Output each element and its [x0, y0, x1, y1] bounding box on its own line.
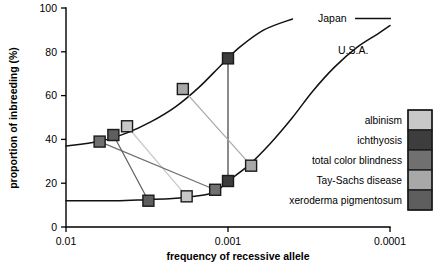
marker-1-0: [223, 53, 234, 64]
marker-4-1: [143, 195, 154, 206]
y-tick-label: 0: [51, 221, 57, 233]
y-tick-label: 100: [39, 2, 57, 14]
legend-label-1: ichthyosis: [357, 135, 402, 146]
chart-canvas: 0204060801000.010.0010.0001 JapanU.S.A. …: [0, 0, 441, 267]
legend: albinismichthyosistotal color blindnessT…: [289, 110, 432, 210]
connector-line-3: [183, 89, 251, 166]
x-tick-label: 0.0001: [374, 235, 406, 247]
curve-labels: JapanU.S.A.: [318, 12, 391, 56]
connector-line-0: [127, 126, 187, 196]
axis-tick-labels: 0204060801000.010.0010.0001: [39, 2, 406, 247]
legend-label-4: xeroderma pigmentosum: [289, 195, 402, 206]
y-tick-label: 80: [45, 46, 57, 58]
marker-0-0: [122, 121, 133, 132]
connector-line-2: [100, 142, 216, 190]
x-axis-title: frequency of recessive allele: [167, 250, 310, 262]
y-tick-label: 20: [45, 177, 57, 189]
x-tick-label: 0.001: [215, 235, 241, 247]
curve-japan: [66, 19, 292, 146]
legend-swatch-3: [408, 170, 432, 190]
legend-swatch-0: [408, 110, 432, 130]
marker-1-1: [223, 176, 234, 187]
curve-label-japan: Japan: [318, 12, 347, 24]
x-tick-label: 0.01: [56, 235, 77, 247]
marker-2-1: [210, 184, 221, 195]
legend-swatch-1: [408, 130, 432, 150]
legend-label-3: Tay-Sachs disease: [316, 175, 402, 186]
legend-swatch-4: [408, 190, 432, 210]
marker-0-1: [181, 191, 192, 202]
marker-3-1: [246, 160, 257, 171]
y-tick-label: 40: [45, 133, 57, 145]
legend-swatch-2: [408, 150, 432, 170]
curve-label-usa: U.S.A.: [338, 44, 368, 56]
marker-2-0: [94, 136, 105, 147]
y-axis-title: proportion of inbreeding (%): [7, 47, 19, 189]
y-tick-label: 60: [45, 89, 57, 101]
marker-3-0: [177, 84, 188, 95]
marker-4-0: [108, 130, 119, 141]
legend-label-2: total color blindness: [312, 155, 402, 166]
chart-figure: 0204060801000.010.0010.0001 JapanU.S.A. …: [0, 0, 441, 267]
legend-label-0: albinism: [365, 115, 402, 126]
